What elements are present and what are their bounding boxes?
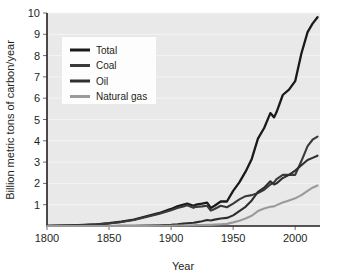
y-tick-label: 1 [34, 199, 40, 211]
x-tick-label: 1850 [97, 232, 121, 244]
chart-figure: 12345678910 18001850190019502000 TotalCo… [0, 0, 339, 277]
y-tick-label: 3 [34, 156, 40, 168]
legend-label-natural-gas: Natural gas [96, 91, 147, 102]
y-tick-label: 9 [34, 28, 40, 40]
y-tick-label: 2 [34, 177, 40, 189]
legend-label-oil: Oil [96, 76, 108, 87]
x-tick-label: 1950 [221, 232, 245, 244]
y-tick-label: 5 [34, 114, 40, 126]
legend-label-total: Total [96, 45, 117, 56]
chart-legend: TotalCoalOilNatural gas [62, 37, 156, 104]
x-axis-title: Year [172, 260, 195, 272]
x-tick-label: 1800 [35, 232, 59, 244]
y-tick-label: 6 [34, 92, 40, 104]
y-tick-label: 8 [34, 50, 40, 62]
x-tick-label: 2000 [283, 232, 307, 244]
legend-label-coal: Coal [96, 60, 117, 71]
y-tick-label: 4 [34, 135, 40, 147]
x-tick-label: 1900 [159, 232, 183, 244]
y-tick-label: 7 [34, 71, 40, 83]
y-axis-title: Billion metric tons of carbon/year [4, 40, 16, 200]
emissions-line-chart: 12345678910 18001850190019502000 TotalCo… [0, 0, 339, 277]
y-tick-label: 10 [28, 7, 40, 19]
